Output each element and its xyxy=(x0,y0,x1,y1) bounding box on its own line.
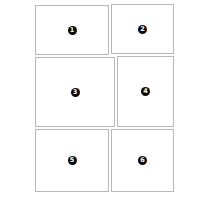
number-badge-4: 4 xyxy=(141,87,150,96)
panel-2: 2 xyxy=(111,4,174,54)
number-badge-3: 3 xyxy=(71,88,80,97)
panel-1: 1 xyxy=(35,5,109,55)
panel-5: 5 xyxy=(35,129,109,192)
panel-4: 4 xyxy=(117,56,174,127)
number-badge-6: 6 xyxy=(138,156,147,165)
number-badge-1: 1 xyxy=(68,26,77,35)
number-badge-2: 2 xyxy=(138,25,147,34)
panel-6: 6 xyxy=(111,129,174,192)
number-badge-5: 5 xyxy=(68,156,77,165)
panel-3: 3 xyxy=(35,57,115,127)
